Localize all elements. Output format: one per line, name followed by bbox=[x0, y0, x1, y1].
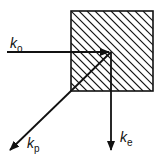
wave-vector-diagram bbox=[0, 0, 164, 159]
arrow-kp bbox=[10, 90, 72, 150]
diagram-canvas: ko kp ke bbox=[0, 0, 164, 159]
label-ko: ko bbox=[10, 36, 23, 54]
hatch-pattern bbox=[71, 11, 164, 91]
label-ke: ke bbox=[120, 130, 133, 148]
label-kp: kp bbox=[27, 136, 40, 154]
